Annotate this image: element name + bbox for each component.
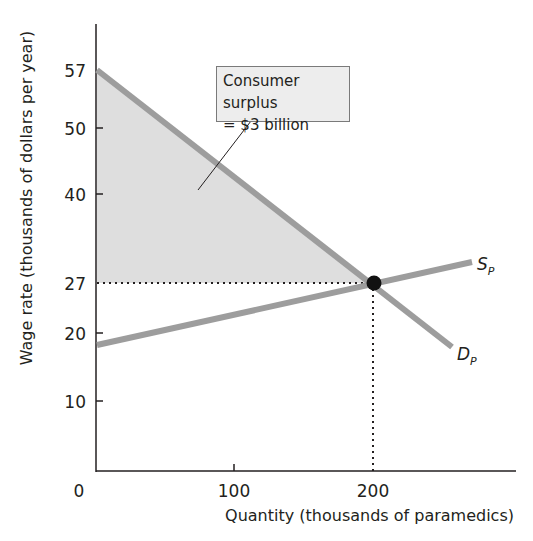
consumer-surplus-callout: Consumer surplus = $3 billion bbox=[216, 66, 350, 122]
y-tick-label-40: 40 bbox=[64, 185, 86, 205]
y-tick-label-27: 27 bbox=[64, 274, 86, 294]
callout-line-1: Consumer surplus bbox=[223, 70, 343, 114]
supply-label: SP bbox=[477, 254, 495, 278]
y-tick-label-50: 50 bbox=[64, 119, 86, 139]
x-axis-title: Quantity (thousands of paramedics) bbox=[225, 506, 514, 525]
origin-label: 0 bbox=[74, 481, 85, 501]
y-tick-label-20: 20 bbox=[64, 324, 86, 344]
demand-label: DP bbox=[457, 344, 477, 368]
y-tick-label-57: 57 bbox=[64, 61, 86, 81]
y-tick-label-10: 10 bbox=[64, 392, 86, 412]
equilibrium-point bbox=[367, 276, 382, 291]
y-axis-title: Wage rate (thousands of dollars per year… bbox=[17, 31, 36, 365]
x-tick-label-100: 100 bbox=[218, 481, 250, 501]
x-tick-label-200: 200 bbox=[357, 481, 389, 501]
callout-line-2: = $3 billion bbox=[223, 114, 343, 136]
